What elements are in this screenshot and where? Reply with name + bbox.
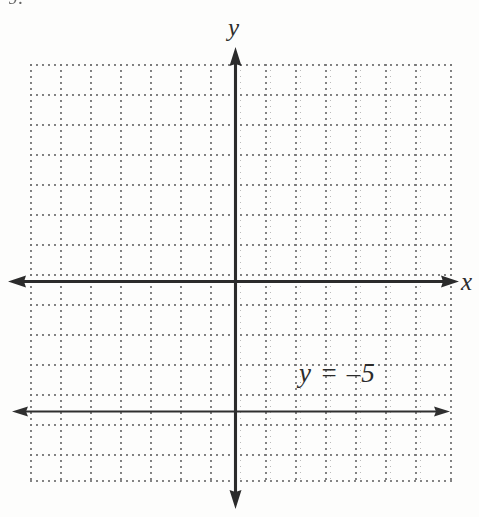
gridline-horizontal xyxy=(30,184,452,186)
gridline-horizontal xyxy=(30,274,452,276)
x-axis-arrow-left-icon xyxy=(8,276,26,288)
y-axis-arrow-down-icon xyxy=(230,490,242,509)
gridline-horizontal xyxy=(30,334,452,336)
gridline-horizontal xyxy=(30,424,452,426)
gridline-vertical xyxy=(120,64,122,482)
line-equation-label: y = –5 xyxy=(299,358,376,389)
gridline-vertical xyxy=(295,64,297,482)
gridline-vertical xyxy=(210,64,212,482)
gridline-vertical xyxy=(235,64,237,482)
gridline-vertical xyxy=(30,64,32,482)
gridline-horizontal xyxy=(30,304,452,306)
gridline-vertical xyxy=(385,64,387,482)
graph-page: 9. xyxy=(0,0,479,517)
gridline-horizontal xyxy=(30,124,452,126)
gridline-horizontal xyxy=(30,64,452,66)
gridline-horizontal xyxy=(30,394,452,396)
gridline-vertical xyxy=(450,64,452,482)
problem-number: 9. xyxy=(8,0,23,9)
gridline-vertical xyxy=(180,64,182,482)
gridline-vertical xyxy=(60,64,62,482)
coordinate-grid xyxy=(30,64,452,482)
gridline-vertical xyxy=(325,64,327,482)
gridline-vertical xyxy=(415,64,417,482)
gridline-vertical xyxy=(90,64,92,482)
gridline-horizontal xyxy=(30,154,452,156)
graphed-line-arrow-left-icon xyxy=(12,407,28,417)
gridline-horizontal xyxy=(30,480,452,482)
gridline-horizontal xyxy=(30,244,452,246)
gridline-vertical xyxy=(150,64,152,482)
gridline-horizontal xyxy=(30,454,452,456)
gridline-vertical xyxy=(355,64,357,482)
gridline-vertical xyxy=(265,64,267,482)
gridline-horizontal xyxy=(30,94,452,96)
gridline-horizontal xyxy=(30,214,452,216)
y-axis-label: y xyxy=(228,14,239,42)
gridline-horizontal xyxy=(30,364,452,366)
x-axis-label: x xyxy=(461,268,472,296)
